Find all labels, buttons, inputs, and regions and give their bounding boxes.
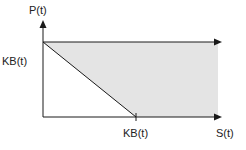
y-intercept-label: KB(t) xyxy=(2,55,27,67)
shaded-region xyxy=(43,42,218,117)
y-axis-arrowhead xyxy=(40,20,47,28)
y-axis-label: P(t) xyxy=(29,4,47,16)
x-axis-label: S(t) xyxy=(216,127,234,139)
x-intercept-label: KB(t) xyxy=(123,127,148,139)
